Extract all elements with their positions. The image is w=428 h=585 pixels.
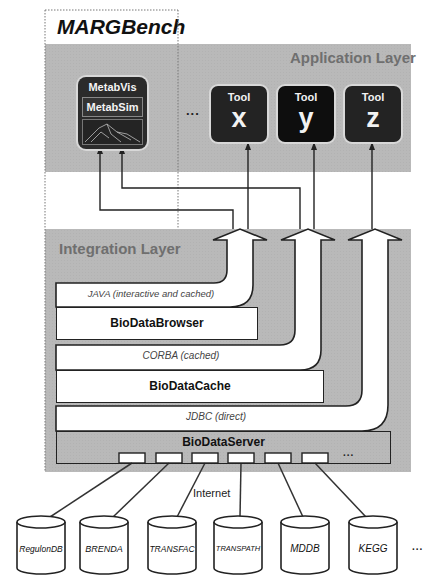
tool-z-letter: z bbox=[345, 104, 401, 132]
server-ports-ellipsis: ... bbox=[343, 447, 354, 458]
db-transpath[interactable]: TRANSPATH bbox=[214, 544, 262, 553]
biodatacache-box[interactable]: BioDataCache bbox=[56, 370, 324, 403]
tool-x-letter: x bbox=[211, 104, 267, 132]
db-brenda[interactable]: BRENDA bbox=[80, 544, 128, 554]
metabsim-label[interactable]: MetabSim bbox=[82, 97, 143, 117]
more-tools-ellipsis: ... bbox=[186, 103, 200, 118]
tool-y[interactable]: Tool y bbox=[278, 86, 334, 142]
biodataserver-box[interactable]: BioDataServer bbox=[56, 431, 391, 464]
tool-z[interactable]: Tool z bbox=[345, 86, 401, 142]
tool-x-label: Tool bbox=[211, 91, 267, 103]
db-kegg[interactable]: KEGG bbox=[349, 543, 397, 554]
internet-label: Internet bbox=[193, 487, 230, 499]
metabvis-tool[interactable]: MetabVis MetabSim bbox=[78, 77, 147, 149]
biodataserver-label: BioDataServer bbox=[57, 435, 390, 449]
database-cylinders bbox=[17, 516, 397, 574]
metabvis-label: MetabVis bbox=[78, 81, 147, 93]
tool-y-label: Tool bbox=[278, 91, 334, 103]
biodatabrowser-box[interactable]: BioDataBrowser bbox=[56, 307, 258, 340]
tool-z-label: Tool bbox=[345, 91, 401, 103]
db-mddb[interactable]: MDDB bbox=[281, 543, 329, 554]
protocol-corba: CORBA (cached) bbox=[56, 350, 306, 361]
protocol-jdbc: JDBC (direct) bbox=[56, 411, 376, 422]
tool-x[interactable]: Tool x bbox=[211, 86, 267, 142]
protocol-java: JAVA (interactive and cached) bbox=[56, 288, 246, 299]
connectors bbox=[100, 144, 372, 229]
db-regulondb[interactable]: RegulonDB bbox=[17, 544, 65, 554]
metabolic-network-icon bbox=[82, 119, 143, 145]
more-databases-ellipsis: ... bbox=[412, 541, 423, 552]
tool-y-letter: y bbox=[278, 104, 334, 132]
db-transfac[interactable]: TRANSFAC bbox=[148, 544, 196, 554]
